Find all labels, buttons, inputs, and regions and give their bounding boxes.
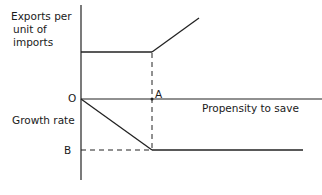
exports-curve-rising <box>152 18 199 52</box>
upper-axis-label-line-3: imports <box>11 36 72 49</box>
upper-axis-label: Exports per unit of imports <box>11 10 72 49</box>
x-axis-label: Propensity to save <box>202 102 299 114</box>
upper-axis-label-line-1: Exports per <box>11 10 72 23</box>
point-a-marker <box>151 98 154 101</box>
lower-axis-label: Growth rate <box>12 114 75 126</box>
point-b-label: B <box>64 144 71 156</box>
upper-axis-label-line-2: unit of <box>11 23 72 36</box>
origin-label: O <box>68 92 76 104</box>
point-a-label: A <box>155 88 162 100</box>
growth-curve-declining <box>81 99 152 150</box>
